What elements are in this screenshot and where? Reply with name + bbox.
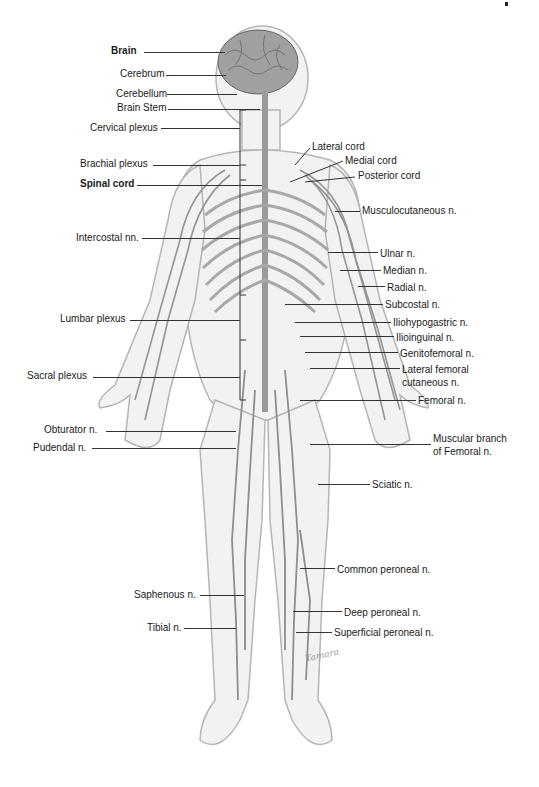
label-lateral-femoral-2: cutaneous n. [402, 377, 459, 389]
leader-subcostal [285, 304, 383, 305]
leader-superficial-peroneal [296, 632, 332, 633]
leader-common-peroneal [300, 568, 335, 569]
label-ulnar: Ulnar n. [380, 248, 415, 260]
leader-genitofemoral [305, 352, 398, 353]
leader-radial [358, 286, 385, 287]
leader-ulnar [328, 252, 378, 253]
label-musculocutaneous: Musculocutaneous n. [362, 205, 457, 217]
label-radial: Radial n. [387, 282, 426, 294]
nervous-system-diagram: Brain Cerebrum Cerebellum Brain Stem Cer… [0, 0, 539, 787]
label-genitofemoral: Genitofemoral n. [400, 348, 474, 360]
label-femoral: Femoral n. [418, 395, 466, 407]
label-sciatic: Sciatic n. [372, 479, 413, 491]
leader-ilioinguinal [300, 336, 394, 337]
label-superficial-peroneal: Superficial peroneal n. [334, 627, 434, 639]
leader-median [340, 270, 381, 271]
label-muscular-branch-1: Muscular branch [433, 433, 507, 445]
leader-sciatic [318, 484, 370, 485]
label-muscular-branch-2: of Femoral n. [433, 446, 492, 458]
label-ilioinguinal: Ilioinguinal n. [396, 332, 454, 344]
leader-muscular-branch [310, 444, 431, 445]
leader-femoral [300, 400, 416, 401]
label-subcostal: Subcostal n. [385, 299, 440, 311]
label-deep-peroneal: Deep peroneal n. [344, 607, 421, 619]
leader-lateral-femoral [310, 368, 400, 369]
leader-musculocutaneous [335, 211, 360, 212]
leader-deep-peroneal [293, 611, 342, 612]
label-common-peroneal: Common peroneal n. [337, 564, 430, 576]
label-lateral-femoral-1: Lateral femoral [402, 364, 469, 376]
leader-iliohypogastric [295, 322, 391, 323]
cord-leaders [0, 0, 539, 787]
label-median: Median n. [383, 265, 427, 277]
label-iliohypogastric: Iliohypogastric n. [393, 317, 468, 329]
